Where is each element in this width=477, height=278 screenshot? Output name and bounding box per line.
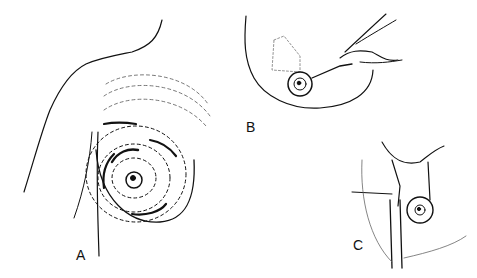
panel-label-b: B <box>246 120 255 134</box>
illustration-drawing <box>0 0 477 278</box>
panel-label-a: A <box>76 248 85 262</box>
panel-a-drawing <box>24 20 210 256</box>
panel-c-drawing <box>352 142 466 268</box>
panel-label-c: C <box>353 238 363 252</box>
panel-b-drawing <box>245 14 402 108</box>
